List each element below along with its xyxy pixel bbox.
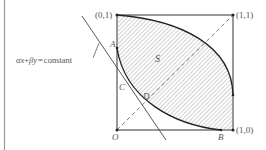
label-y: y xyxy=(32,55,37,65)
label-origin: O xyxy=(112,132,119,142)
point-upper-end xyxy=(232,94,235,97)
constraint-line-label: αx+βy=constant xyxy=(16,55,73,65)
label-b: B xyxy=(218,132,224,142)
label-1-1: (1,1) xyxy=(236,10,253,20)
label-d: D xyxy=(142,91,150,101)
point-b xyxy=(220,129,223,132)
diagram-canvas: (0,1) (1,1) (1,0) O A B C D S αx+βy=cons… xyxy=(0,0,266,150)
point-1-1 xyxy=(232,14,235,17)
point-a xyxy=(116,47,119,50)
label-leader xyxy=(93,43,99,58)
label-1-0: (1,0) xyxy=(236,125,253,135)
label-constant: constant xyxy=(44,55,73,65)
label-0-1: (0,1) xyxy=(95,10,112,20)
point-1-0 xyxy=(232,129,235,132)
label-eq: = xyxy=(38,55,43,65)
label-a: A xyxy=(109,39,116,49)
point-0-1 xyxy=(116,14,119,17)
label-region-s: S xyxy=(155,53,160,64)
label-c: C xyxy=(119,82,126,92)
